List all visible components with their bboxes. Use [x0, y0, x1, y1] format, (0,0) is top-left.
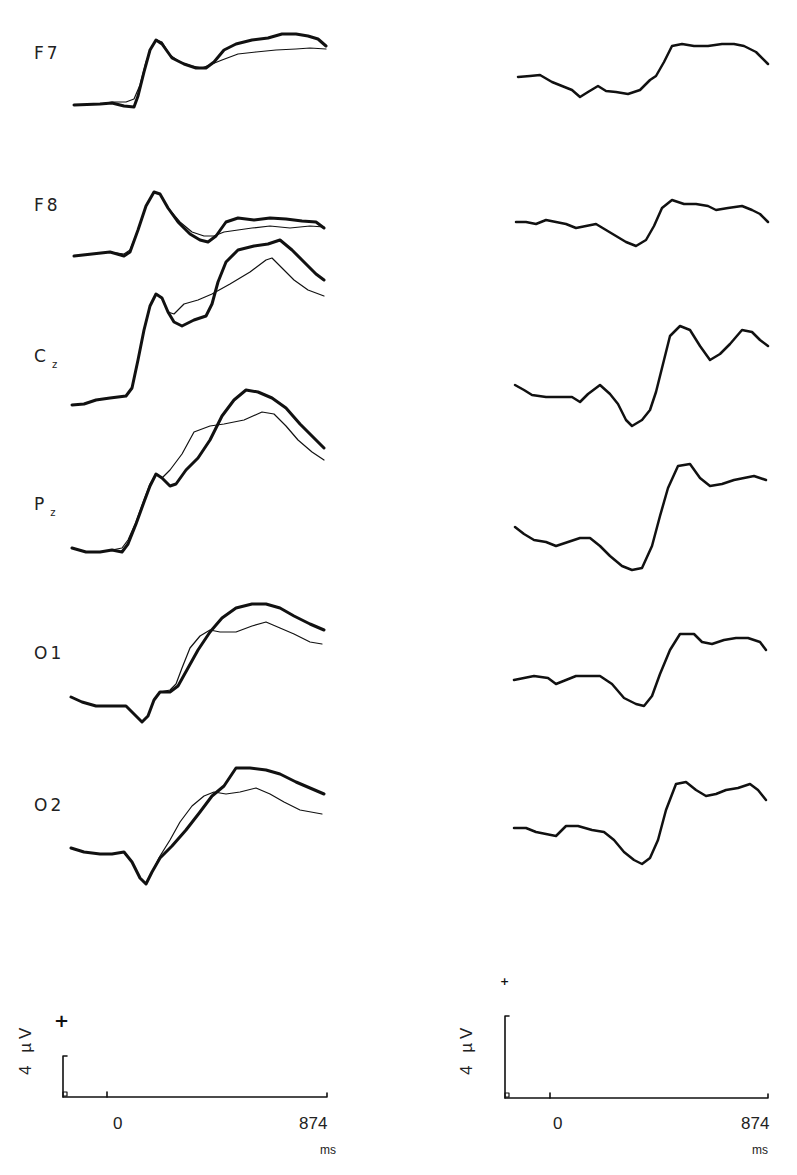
left-cz-thin-trace — [72, 258, 324, 405]
left-unit-ms: ms — [320, 1143, 336, 1157]
left-pz-thin-trace — [72, 412, 324, 552]
channel-label-text: C — [34, 346, 49, 366]
left-polarity-plus: + — [54, 1010, 69, 1031]
channel-label-o2: O2 — [34, 795, 64, 815]
right-unit-ms: ms — [752, 1143, 768, 1157]
left-f7-traces — [74, 34, 326, 107]
left-o1-thick-trace — [71, 604, 324, 722]
left-amplitude-bar — [63, 1056, 67, 1097]
channel-label-text: O2 — [34, 795, 64, 815]
channel-label-text: O1 — [34, 643, 64, 663]
left-o2-traces — [71, 768, 324, 884]
channel-label-subscript: z — [50, 507, 55, 518]
right-cz-trace — [515, 326, 768, 426]
left-time-axis — [63, 1093, 327, 1097]
left-o1-traces — [71, 604, 324, 722]
right-f7-trace — [518, 44, 768, 97]
channel-label-pz: Pz — [34, 494, 56, 516]
right-polarity-plus: + — [500, 975, 509, 988]
left-f7-thick-trace — [74, 34, 326, 107]
left-pz-thick-trace — [72, 390, 324, 552]
left-o2-thick-trace — [71, 768, 324, 884]
right-o2-trace — [514, 782, 766, 864]
right-traces — [514, 44, 768, 864]
channel-label-text: P — [34, 494, 47, 514]
right-origin-marker — [505, 1093, 509, 1097]
right-scale-bar — [505, 1016, 768, 1098]
left-f7-thin-trace — [74, 40, 326, 105]
channel-label-text: F7 — [34, 43, 61, 63]
right-amplitude-bar — [505, 1016, 509, 1098]
right-f8-trace — [516, 200, 768, 246]
left-o2-thin-trace — [71, 788, 322, 884]
left-amplitude-label: 4 µV — [16, 1024, 36, 1075]
right-tick-zero: 0 — [553, 1114, 562, 1134]
channel-label-cz: Cz — [34, 346, 57, 368]
left-origin-marker — [63, 1092, 67, 1096]
channel-label-text: F8 — [34, 195, 61, 215]
right-pz-trace — [515, 464, 766, 570]
right-o1-trace — [514, 634, 766, 706]
left-tick-end: 874 — [299, 1114, 327, 1134]
channel-label-f8: F8 — [34, 195, 61, 215]
left-scale-bar — [63, 1056, 327, 1097]
channel-label-o1: O1 — [34, 643, 64, 663]
left-pz-traces — [72, 390, 324, 552]
right-amplitude-label: 4 µV — [457, 1024, 477, 1075]
left-tick-zero: 0 — [113, 1114, 122, 1134]
channel-label-f7: F7 — [34, 43, 61, 63]
right-tick-end: 874 — [741, 1114, 769, 1134]
right-time-axis — [505, 1094, 768, 1098]
erp-figure — [0, 0, 797, 1175]
channel-label-subscript: z — [52, 359, 57, 370]
left-cz-thick-trace — [72, 240, 324, 405]
left-cz-traces — [72, 240, 324, 405]
